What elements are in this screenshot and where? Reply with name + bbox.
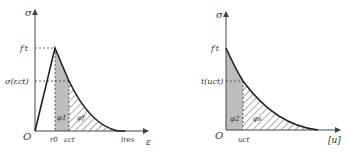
right-chart: σ [u] O f′t t(uct) uct φ2 φs: [201, 9, 341, 145]
svg-text:σ: σ: [25, 7, 33, 18]
svg-text:σ: σ: [216, 9, 224, 20]
svg-text:φs: φs: [253, 115, 262, 123]
svg-text:t(uct): t(uct): [201, 77, 223, 86]
svg-text:εct: εct: [64, 136, 75, 144]
svg-text:φ2: φ2: [230, 115, 240, 123]
svg-text:O: O: [215, 130, 223, 141]
phif-region: [69, 81, 118, 131]
svg-text:uct: uct: [238, 136, 249, 144]
svg-text:O: O: [23, 131, 31, 142]
svg-text:r0: r0: [50, 136, 58, 144]
diagram-canvas: σ ε O f′t σ(εct) r0 εct lres φ1 φf σ [u]…: [0, 0, 350, 158]
svg-text:f′t: f′t: [19, 44, 29, 53]
svg-text:lres: lres: [121, 136, 135, 144]
svg-text:σ(εct): σ(εct): [5, 77, 29, 86]
svg-text:ε: ε: [146, 137, 151, 147]
svg-text:φ1: φ1: [57, 114, 66, 122]
svg-text:f′t: f′t: [210, 44, 220, 53]
svg-text:[u]: [u]: [328, 135, 341, 145]
left-chart: σ ε O f′t σ(εct) r0 εct lres φ1 φf: [5, 7, 151, 147]
